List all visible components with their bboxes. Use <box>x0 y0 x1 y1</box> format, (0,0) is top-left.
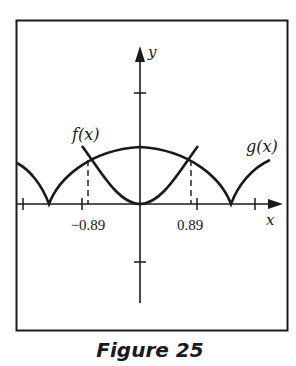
y-axis <box>134 46 146 303</box>
g-label: g(x) <box>246 137 278 156</box>
x-axis-label: x <box>266 211 275 229</box>
x-axis-arrow-icon <box>268 199 283 209</box>
x-axis <box>17 198 283 210</box>
curve-g <box>17 147 270 204</box>
figure-caption: Figure 25 <box>96 338 203 362</box>
tick-label-neg: −0.89 <box>71 217 106 233</box>
figure-canvas: y x f(x) g(x) −0.89 0.89 Figure 25 <box>0 0 296 366</box>
tick-label-pos: 0.89 <box>177 217 203 233</box>
y-axis-arrow-icon <box>135 46 145 62</box>
y-axis-label: y <box>147 43 157 61</box>
f-label: f(x) <box>71 125 99 144</box>
